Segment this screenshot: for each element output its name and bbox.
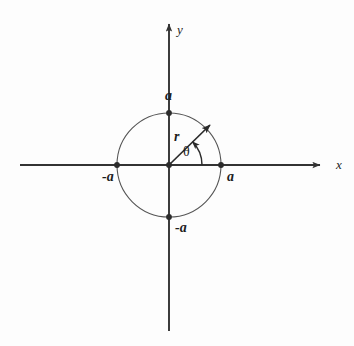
intercept-dot-bottom (166, 214, 172, 220)
polar-circle-diagram: x y a a -a -a r θ (0, 0, 354, 346)
intercept-label-top: a (165, 89, 172, 103)
theta-angle-arc (193, 142, 203, 165)
diagram-canvas (0, 0, 354, 346)
intercept-label-left: -a (102, 170, 114, 184)
intercept-dot-left (114, 162, 120, 168)
radius-vector-label: r (174, 130, 179, 144)
intercept-label-right: a (227, 170, 234, 184)
theta-angle-label: θ (183, 145, 190, 159)
intercept-dot-right (218, 162, 224, 168)
x-axis-label: x (336, 158, 342, 171)
intercept-dot-top (166, 110, 172, 116)
intercept-label-bottom: -a (175, 221, 187, 235)
y-axis-label: y (177, 23, 183, 36)
